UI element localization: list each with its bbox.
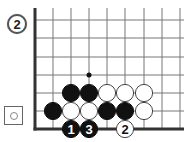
stone-move-number: 3 [85,122,92,137]
point-marker-icon [87,73,92,78]
problem-number-badge: 2 [7,14,27,34]
go-board: 132 [0,0,188,142]
empty-circle-icon [10,112,18,120]
white-stone [80,102,97,119]
white-stone [135,102,152,119]
black-stone [80,84,97,101]
problem-number: 2 [13,17,20,32]
white-stone [98,84,115,101]
black-stone [98,102,115,119]
black-stone [44,102,61,119]
stone-move-number: 2 [121,122,128,137]
white-stone [62,102,79,119]
legend-box [4,106,23,125]
black-stone [116,102,133,119]
stone-move-number: 1 [67,122,74,137]
white-stone [116,84,133,101]
black-stone [62,84,79,101]
white-stone [135,84,152,101]
